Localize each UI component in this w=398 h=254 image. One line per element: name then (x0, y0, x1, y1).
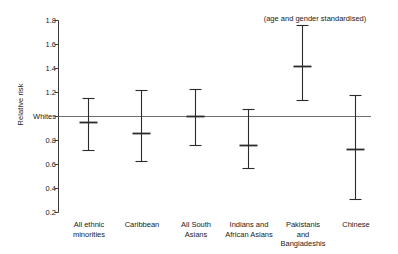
y-axis-ticks (55, 21, 59, 213)
plot-area (0, 0, 398, 254)
error-bar-caribbean (133, 91, 151, 162)
error-bar-chinese (347, 96, 365, 200)
error-bar-all-ethnic-minorities (80, 99, 98, 151)
error-bar-all-south-asians (187, 90, 205, 146)
error-bar-indians-and-african-asians (240, 110, 258, 169)
error-bar-pakistanis-and-bangladeshis (294, 26, 312, 101)
x-category-label-chinese: Chinese (327, 220, 385, 230)
x-category-label-pakistanis-and-bangladeshis: Pakistanis and Bangladeshis (272, 220, 334, 249)
relative-risk-error-bar-chart: Relative risk 1.8 1.6 1.4 1.2 Whites 0.8… (0, 0, 398, 254)
